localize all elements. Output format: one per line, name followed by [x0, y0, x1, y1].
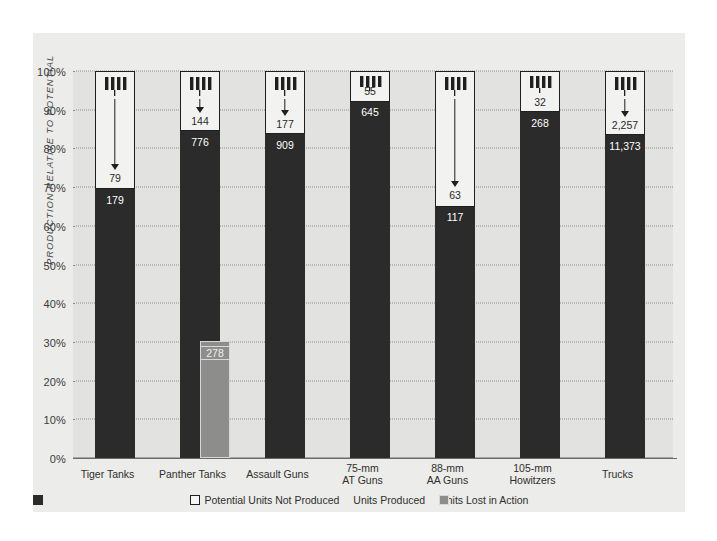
bar-segment-produced[interactable]	[520, 112, 560, 458]
legend-label: Potential Units Not Produced	[205, 494, 340, 506]
legend-swatch-icon	[33, 495, 43, 505]
y-tick-10: 10%	[43, 414, 66, 426]
y-axis-title: PRODUCTION RELATIVE TO POTENTIAL	[44, 55, 55, 265]
bar-group-trucks[interactable]: 2,257 11,373	[605, 71, 645, 458]
y-tick-0: 0%	[50, 453, 66, 465]
x-tick-label-assault-guns: Assault Guns	[240, 468, 315, 480]
value-label-produced: 11,373	[605, 140, 645, 152]
value-label-produced: 776	[180, 136, 220, 148]
y-tick-80: 80%	[43, 143, 66, 155]
x-tick-label-trucks: Trucks	[580, 468, 655, 480]
value-label-produced: 117	[435, 211, 475, 223]
value-label-produced: 645	[350, 106, 390, 118]
legend-swatch-icon	[190, 495, 200, 505]
y-tick-90: 90%	[43, 104, 66, 116]
plot-area: 100% 90% 80% 70% 60% 50% 40% 30% 20% 10%	[73, 71, 673, 458]
legend-item-units-lost-in-action[interactable]: Units Lost in Action	[439, 494, 528, 506]
y-tick-100: 100%	[37, 66, 66, 78]
bar-group-panther-tanks[interactable]: 144 776 278	[180, 71, 220, 458]
x-tick-label-88mm-aa-guns: 88-mm AA Guns	[410, 462, 485, 486]
bar-group-88mm-aa-guns[interactable]: 63 117	[435, 71, 475, 458]
bar-group-105mm-howitzers[interactable]: 32 268	[520, 71, 560, 458]
y-tick-60: 60%	[43, 220, 66, 232]
legend-item-units-produced[interactable]: Units Produced	[353, 494, 425, 506]
tally-units-icon	[442, 77, 468, 100]
gap-arrow-head	[281, 110, 289, 116]
value-label-produced: 268	[520, 117, 560, 129]
y-tick-70: 70%	[43, 182, 66, 194]
bar-segment-produced[interactable]	[435, 207, 475, 459]
bar-segment-potential-not-produced[interactable]	[435, 71, 475, 207]
value-label-lost-in-action: 278	[200, 346, 230, 360]
legend-swatch-icon	[439, 495, 449, 505]
y-tick-40: 40%	[43, 298, 66, 310]
y-tick-20: 20%	[43, 375, 66, 387]
y-tick-30: 30%	[43, 336, 66, 348]
value-label-not-produced: 32	[520, 96, 560, 108]
value-label-not-produced: 2,257	[605, 119, 645, 131]
tally-units-icon	[187, 77, 213, 100]
chart-legend: Potential Units Not Produced Units Produ…	[33, 494, 685, 506]
x-tick-label-105mm-howitzers: 105-mm Howitzers	[495, 462, 570, 486]
tally-units-icon	[612, 77, 638, 100]
chart-figure: PRODUCTION RELATIVE TO POTENTIAL 100% 90…	[0, 0, 717, 541]
value-label-produced: 179	[95, 194, 135, 206]
bar-segment-produced[interactable]	[605, 135, 645, 458]
gap-arrow-head	[621, 111, 629, 117]
legend-label: Units Produced	[353, 494, 425, 506]
bar-segment-produced[interactable]	[350, 102, 390, 458]
gap-arrow-shaft	[114, 99, 115, 165]
legend-label: Units Lost in Action	[439, 494, 528, 506]
x-tick-label-75mm-at-guns: 75-mm AT Guns	[325, 462, 400, 486]
legend-item-potential-not-produced[interactable]: Potential Units Not Produced	[190, 494, 340, 506]
gap-arrow-head	[196, 107, 204, 113]
bar-group-tiger-tanks[interactable]: 79 179	[95, 71, 135, 458]
value-label-not-produced: 144	[180, 115, 220, 127]
tally-units-icon	[272, 77, 298, 100]
x-tick-label-tiger-tanks: Tiger Tanks	[70, 468, 145, 480]
value-label-not-produced: 177	[265, 118, 305, 130]
y-tick-50: 50%	[43, 259, 66, 271]
bar-segment-produced[interactable]	[265, 134, 305, 458]
gap-arrow-shaft	[454, 99, 455, 182]
value-label-not-produced: 55	[350, 85, 390, 97]
value-label-not-produced: 63	[435, 189, 475, 201]
value-label-not-produced: 79	[95, 172, 135, 184]
value-label-produced: 909	[265, 139, 305, 151]
x-tick-label-panther-tanks: Panther Tanks	[155, 468, 230, 480]
bar-group-75mm-at-guns[interactable]: 55 645	[350, 71, 390, 458]
x-axis-line	[73, 458, 677, 459]
bar-group-assault-guns[interactable]: 177 909	[265, 71, 305, 458]
gap-arrow-head	[451, 181, 459, 187]
tally-units-icon	[102, 77, 128, 100]
bar-segment-produced[interactable]	[95, 189, 135, 458]
gap-arrow-head	[111, 164, 119, 170]
